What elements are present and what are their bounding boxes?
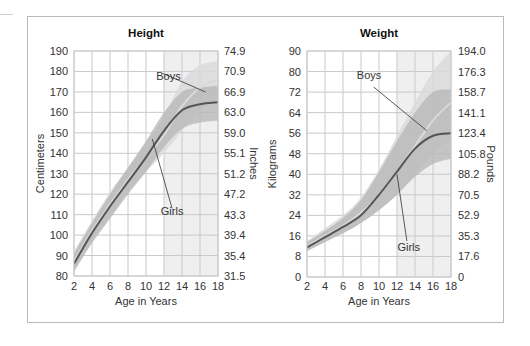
y-tick-label-right: 35.3 (458, 230, 479, 242)
x-tick-label: 16 (427, 280, 439, 292)
y-tick-label-right: 17.6 (458, 250, 479, 262)
y-tick-label: 8 (295, 250, 301, 262)
y-axis-label-right: Inches (248, 147, 260, 180)
y-tick-label-right: 31.5 (224, 270, 245, 282)
x-tick-label: 2 (71, 280, 77, 292)
y-tick-label: 80 (56, 270, 68, 282)
y-tick-label-right: 59.0 (224, 127, 245, 139)
weight-chart: Weight00817.61635.32452.93270.54088.2481… (266, 27, 497, 307)
x-tick-label: 4 (322, 280, 328, 292)
chart-title: Height (128, 27, 164, 39)
y-tick-label-right: 63.0 (224, 106, 245, 118)
x-tick-label: 8 (358, 280, 364, 292)
y-tick-label: 110 (50, 209, 68, 221)
y-tick-label: 40 (289, 168, 301, 180)
x-axis-label: Age in Years (348, 295, 410, 307)
y-tick-label-right: 55.1 (224, 147, 245, 159)
y-tick-label-right: 74.9 (224, 45, 245, 57)
y-tick-label: 48 (289, 148, 301, 160)
annotation-boys: Boys (156, 70, 181, 82)
y-tick-label: 90 (56, 250, 68, 262)
y-tick-label: 180 (50, 65, 68, 77)
y-tick-label: 150 (50, 127, 68, 139)
y-tick-label: 190 (50, 45, 68, 57)
y-tick-label-right: 141.1 (458, 107, 486, 119)
y-tick-label-right: 66.9 (224, 86, 245, 98)
y-axis-label: Centimeters (34, 133, 46, 193)
y-tick-label: 0 (295, 271, 301, 283)
x-axis-label: Age in Years (115, 295, 177, 307)
x-tick-label: 10 (373, 280, 385, 292)
y-tick-label: 100 (50, 229, 68, 241)
x-tick-label: 10 (140, 280, 152, 292)
y-tick-label: 24 (289, 209, 301, 221)
x-tick-label: 8 (125, 280, 131, 292)
y-tick-label: 16 (289, 230, 301, 242)
annotation-girls: Girls (397, 241, 420, 253)
x-tick-label: 16 (194, 280, 206, 292)
chart-title: Weight (360, 27, 398, 39)
x-tick-label: 14 (176, 280, 188, 292)
y-axis-label: Kilograms (266, 139, 278, 188)
x-tick-label: 14 (409, 280, 421, 292)
annotation-boys: Boys (357, 69, 382, 81)
y-tick-label-right: 123.4 (458, 127, 486, 139)
y-axis-label-right: Pounds (485, 145, 497, 183)
x-tick-label: 6 (340, 280, 346, 292)
y-tick-label: 160 (50, 106, 68, 118)
y-tick-label-right: 39.4 (224, 229, 245, 241)
x-tick-label: 6 (107, 280, 113, 292)
y-tick-label: 64 (289, 107, 301, 119)
y-tick-label-right: 70.9 (224, 65, 245, 77)
y-tick-label-right: 51.2 (224, 168, 245, 180)
height-chart: Height8031.59035.410039.411043.312047.21… (34, 27, 260, 307)
y-tick-label-right: 88.2 (458, 168, 479, 180)
x-tick-label: 18 (212, 280, 224, 292)
y-tick-label: 72 (289, 86, 301, 98)
y-tick-label: 56 (289, 127, 301, 139)
y-tick-label-right: 35.4 (224, 250, 245, 262)
y-tick-label-right: 194.0 (458, 45, 486, 57)
y-tick-label: 140 (50, 147, 68, 159)
x-tick-label: 12 (158, 280, 170, 292)
y-tick-label: 90 (289, 45, 301, 57)
y-tick-label-right: 105.8 (458, 148, 486, 160)
x-tick-label: 12 (391, 280, 403, 292)
growth-charts: Height8031.59035.410039.411043.312047.21… (0, 0, 530, 346)
y-tick-label-right: 70.5 (458, 189, 479, 201)
y-tick-label-right: 43.3 (224, 209, 245, 221)
y-tick-label-right: 0 (458, 271, 464, 283)
x-tick-label: 18 (445, 280, 457, 292)
y-tick-label-right: 47.2 (224, 188, 245, 200)
x-tick-label: 2 (304, 280, 310, 292)
x-tick-label: 4 (89, 280, 95, 292)
y-tick-label-right: 176.3 (458, 66, 486, 78)
y-tick-label: 32 (289, 189, 301, 201)
y-tick-label-right: 158.7 (458, 86, 486, 98)
y-tick-label: 170 (50, 86, 68, 98)
y-tick-label-right: 52.9 (458, 209, 479, 221)
y-tick-label: 130 (50, 168, 68, 180)
y-tick-label: 80 (289, 66, 301, 78)
y-tick-label: 120 (50, 188, 68, 200)
annotation-girls: Girls (161, 205, 184, 217)
